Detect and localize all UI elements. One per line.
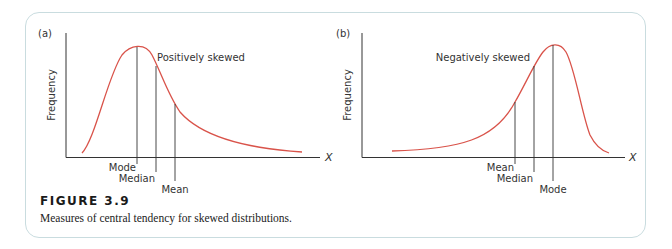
panel-b-label: (b) [336,28,350,39]
x-axis-label: X [324,151,333,164]
skew-label: Negatively skewed [436,52,530,63]
figure-caption: Measures of central tendency for skewed … [40,212,292,224]
panel-a-label: (a) [38,28,52,39]
median-label: Median [119,173,155,184]
panel-a: (a) X Frequency Positively skewed Mode M… [38,28,333,195]
x-axis-label: X [628,151,637,164]
panel-b: (b) X Frequency Negatively skewed Mean M… [336,28,637,195]
y-axis-label: Frequency [342,69,353,121]
skew-label: Positively skewed [157,52,245,63]
y-axis-label: Frequency [46,69,57,121]
mode-label: Mode [109,162,136,173]
mode-label: Mode [539,184,566,195]
figure-title: FIGURE 3.9 [40,194,130,208]
mean-label: Mean [161,184,188,195]
mean-label: Mean [487,162,514,173]
median-label: Median [497,173,533,184]
